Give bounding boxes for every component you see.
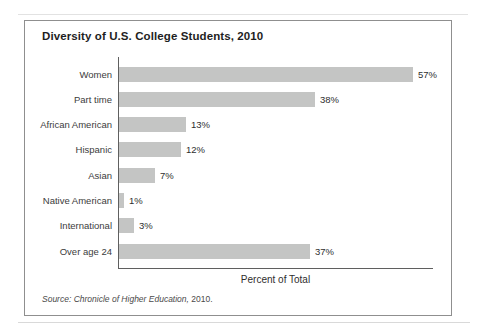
figure-canvas: Diversity of U.S. College Students, 2010… [0,0,478,336]
bar-value-label: 57% [418,67,437,82]
x-axis-line [118,268,433,269]
source-note-italic: Source: Chronicle of Higher Education, [42,294,189,304]
bar-row: African American13% [25,117,451,132]
bar [119,142,181,157]
bar [119,168,155,183]
page-rule-top [18,14,468,15]
bar-row: Part time38% [25,92,451,107]
page-rule-bottom [18,322,470,323]
bar-value-label: 37% [315,244,334,259]
bar-category-label: International [25,218,112,233]
bar-row: International3% [25,218,451,233]
bar-category-label: Women [25,67,112,82]
chart-frame: Diversity of U.S. College Students, 2010… [24,20,452,316]
bar-row: Native American1% [25,193,451,208]
bar-category-label: Hispanic [25,142,112,157]
bar-value-label: 1% [129,193,143,208]
bar-category-label: African American [25,117,112,132]
bar-value-label: 13% [191,117,210,132]
bar-category-label: Over age 24 [25,244,112,259]
bar [119,117,186,132]
bar-row: Asian7% [25,168,451,183]
bar-category-label: Native American [25,193,112,208]
bar-category-label: Asian [25,168,112,183]
bar [119,92,315,107]
bar-chart: Women57%Part time38%African American13%H… [25,21,451,315]
bar-value-label: 3% [139,218,153,233]
bar [119,67,413,82]
bar-row: Women57% [25,67,451,82]
bar [119,218,134,233]
x-axis-label: Percent of Total [118,274,433,285]
bar-category-label: Part time [25,92,112,107]
bar-value-label: 12% [186,142,205,157]
bar-value-label: 38% [320,92,339,107]
bar-value-label: 7% [160,168,174,183]
bar [119,244,310,259]
bar [119,193,124,208]
y-axis-line [118,57,119,268]
source-note: Source: Chronicle of Higher Education, 2… [42,294,213,304]
source-note-year: 2010. [189,294,213,304]
bar-row: Over age 2437% [25,244,451,259]
bar-row: Hispanic12% [25,142,451,157]
